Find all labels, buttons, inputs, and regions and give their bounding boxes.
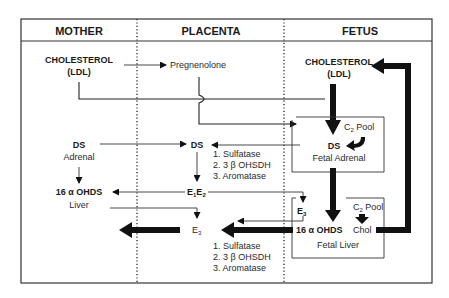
pregnenolone-label: Pregnenolone bbox=[170, 60, 226, 70]
fetal-16-alpha-ohds: 16 α OHDS bbox=[296, 225, 343, 235]
c2-pool-to-chol-arrow bbox=[355, 214, 369, 224]
fetus-cholesterol: CHOLESTEROL bbox=[305, 57, 374, 67]
placenta-e1e2: E1E2 bbox=[187, 187, 206, 198]
fetal-cholesterol-down-arrow-head bbox=[325, 120, 341, 135]
fetal-e3: E3 bbox=[297, 206, 307, 217]
c2-pool-to-ds-curved-arrow bbox=[346, 137, 365, 151]
fetal-chol: Chol bbox=[353, 225, 372, 235]
header-placenta: PLACENTA bbox=[181, 25, 240, 37]
enzyme-list-bottom-3: 3. Aromatase bbox=[213, 263, 266, 273]
placenta-e3: E3 bbox=[192, 225, 202, 236]
mother-cholesterol: CHOLESTEROL bbox=[45, 55, 114, 65]
enzyme-list-top-1: 1. Sulfatase bbox=[213, 149, 261, 159]
header-fetus: FETUS bbox=[342, 25, 378, 37]
fetal-adrenal-label: Fetal Adrenal bbox=[312, 153, 365, 163]
placenta-ds: DS bbox=[191, 140, 204, 150]
fetal-e3-to-placenta-arrow bbox=[238, 216, 303, 221]
mother-liver-to-e3-line bbox=[110, 208, 197, 218]
enzyme-list-bottom-2: 2. 3 β OHSDH bbox=[213, 252, 271, 262]
fetal-adrenal-ds: DS bbox=[328, 141, 341, 151]
fetal-adrenal-c2-pool: C2 Pool bbox=[344, 122, 374, 133]
fetal-liver-c2-pool: C2 Pool bbox=[353, 202, 383, 213]
enzyme-list-bottom-1: 1. Sulfatase bbox=[213, 241, 261, 251]
fetal-ohds-to-placenta-arrow-head bbox=[221, 222, 234, 238]
mother-adrenal-label: Adrenal bbox=[63, 152, 94, 162]
mother-liver-label: Liver bbox=[69, 200, 89, 210]
enzyme-list-top-3: 3. Aromatase bbox=[213, 171, 266, 181]
mother-cholesterol-ldl: (LDL) bbox=[67, 67, 91, 77]
enzyme-list-top-2: 2. 3 β OHSDH bbox=[213, 160, 271, 170]
fetus-cholesterol-ldl: (LDL) bbox=[327, 69, 351, 79]
header-mother: MOTHER bbox=[55, 25, 103, 37]
pregnenolone-to-fetal-adrenal-line bbox=[199, 77, 296, 124]
fetal-liver-label: Fetal Liver bbox=[317, 240, 359, 250]
e3-to-mother-arrow-head bbox=[119, 222, 132, 238]
adrenal-to-liver-arrow-head bbox=[325, 210, 341, 222]
mother-16-alpha-ohds: 16 α OHDS bbox=[56, 187, 103, 197]
estriol-synthesis-diagram: MOTHER PLACENTA FETUS CHOLESTEROL (LDL) … bbox=[0, 0, 449, 298]
mother-ds: DS bbox=[73, 140, 86, 150]
e1e2-to-fetal-e3-arrow bbox=[300, 192, 303, 202]
